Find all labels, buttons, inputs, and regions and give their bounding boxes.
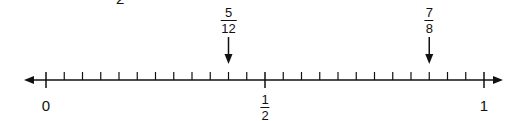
left-arrowhead-icon (24, 76, 34, 84)
denominator: 8 (425, 22, 434, 35)
fraction-label-5-12: 512 (220, 6, 236, 35)
denominator: 12 (220, 22, 236, 35)
right-arrowhead-icon (493, 76, 503, 84)
numerator: 7 (425, 6, 434, 19)
cropped-text-fragment: 2 (116, 0, 124, 6)
number-line (0, 0, 517, 121)
down-arrow-icon (425, 54, 433, 64)
denominator: 2 (260, 109, 269, 121)
numerator: 5 (224, 6, 233, 19)
numerator: 1 (260, 93, 269, 106)
tick-label-1-2: 12 (260, 93, 269, 121)
tick-label-1: 1 (480, 98, 488, 113)
fraction-label-7-8: 78 (425, 6, 434, 35)
down-arrow-icon (225, 54, 233, 64)
tick-label-0: 0 (42, 98, 50, 113)
